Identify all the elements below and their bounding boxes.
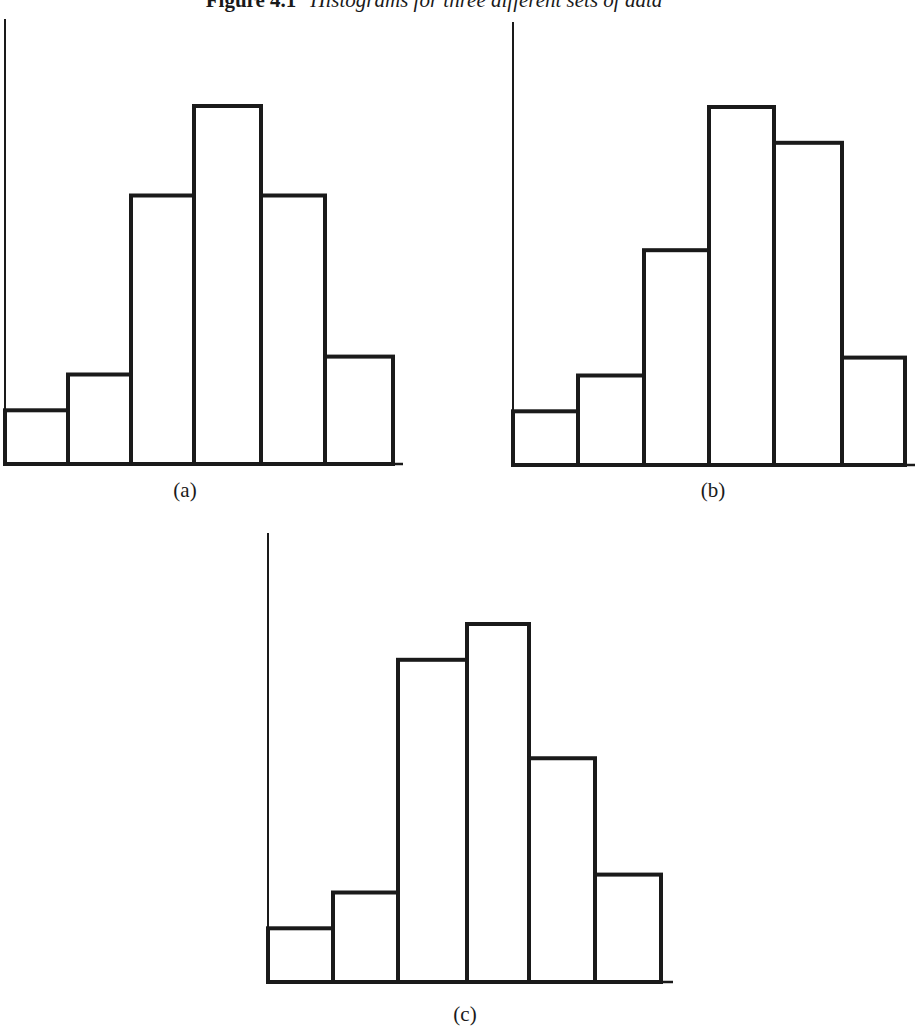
histogram-bar <box>68 375 131 465</box>
histogram-a <box>5 19 403 465</box>
histogram-bar <box>131 196 194 465</box>
histogram-bar <box>5 410 68 464</box>
histogram-bar <box>261 196 325 465</box>
histogram-bar <box>333 893 398 983</box>
histogram-bar <box>595 875 661 982</box>
histogram-bar <box>194 106 261 464</box>
histogram-bar <box>398 660 467 982</box>
histogram-bar <box>268 928 333 982</box>
histogram-bar <box>513 411 578 465</box>
histogram-b <box>513 22 915 466</box>
histogram-figure <box>0 0 915 1031</box>
histogram-bar <box>644 250 709 465</box>
panel-label-b: (b) <box>701 478 726 503</box>
histogram-c <box>268 533 673 983</box>
histogram-bar <box>325 357 393 464</box>
histogram-bar <box>467 624 529 982</box>
histogram-bar <box>578 376 644 466</box>
histogram-bar <box>709 107 774 465</box>
panel-label-a: (a) <box>173 478 196 503</box>
histogram-bar <box>774 143 842 465</box>
panel-label-c: (c) <box>453 1002 476 1027</box>
histogram-bar <box>529 758 595 982</box>
histogram-bar <box>842 358 905 465</box>
